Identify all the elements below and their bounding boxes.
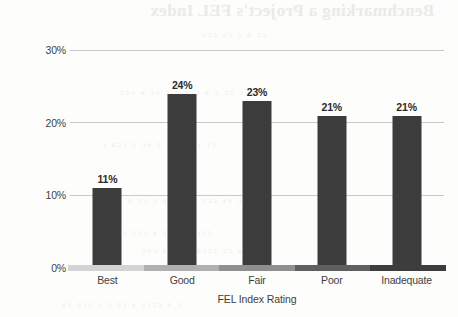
y-axis-tick-label: 10% <box>22 190 66 201</box>
bar-value-label: 23% <box>247 86 267 98</box>
bleedthrough-title-artifact: Benchmarking a Project's FEL Index <box>150 1 434 21</box>
y-axis-tick-labels: 0%10%20%30% <box>18 36 66 268</box>
bar <box>242 101 271 268</box>
chart-page: Benchmarking a Project's FEL Index cc a … <box>0 0 458 317</box>
y-axis-tick-label: 0% <box>22 263 66 274</box>
bar-group: 21% <box>369 36 444 268</box>
bar-value-label: 21% <box>322 101 342 113</box>
fel-index-scale-strip <box>68 265 446 271</box>
bar <box>392 116 421 268</box>
bar-value-label: 21% <box>396 101 416 113</box>
y-axis-tick-label: 20% <box>22 118 66 129</box>
x-axis-tick-labels: BestGoodFairPoorInadequate <box>70 274 444 290</box>
bar-value-label: 11% <box>97 173 117 185</box>
scale-segment-fair <box>219 265 295 271</box>
bar <box>93 188 122 268</box>
x-axis-title: FEL Index Rating <box>70 293 444 305</box>
scale-segment-inadequate <box>370 265 446 271</box>
bar <box>317 116 346 268</box>
bar-group: 11% <box>70 36 145 268</box>
x-axis-tick-label-inadequate: Inadequate <box>362 274 452 286</box>
bar <box>168 94 197 268</box>
bar-group: 21% <box>294 36 369 268</box>
bar-group: 24% <box>145 36 220 268</box>
scale-segment-good <box>144 265 220 271</box>
scale-segment-poor <box>295 265 371 271</box>
bar-group: 23% <box>220 36 295 268</box>
plot-area: 11%24%23%21%21% <box>70 36 444 268</box>
y-axis-tick-label: 30% <box>22 45 66 56</box>
bar-value-label: 24% <box>172 79 192 91</box>
scale-segment-best <box>68 265 144 271</box>
